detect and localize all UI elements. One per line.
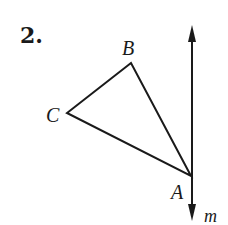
vertex-label-c: C — [46, 104, 60, 126]
arrow-up-icon — [188, 25, 196, 42]
vertex-label-a: A — [169, 181, 184, 203]
arrow-down-icon — [188, 204, 196, 221]
triangle-abc — [67, 63, 191, 176]
geometry-figure: 2. B C A m — [0, 0, 228, 225]
vertex-label-b: B — [122, 37, 134, 59]
problem-number: 2. — [20, 22, 43, 48]
line-label-m: m — [204, 206, 217, 225]
